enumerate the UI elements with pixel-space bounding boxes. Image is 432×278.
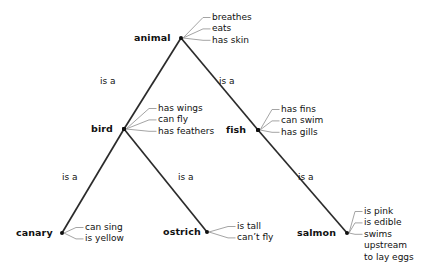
- property-bird-2: has feathers: [158, 126, 214, 137]
- property-link-fish-2: [260, 130, 280, 132]
- property-fish-2: has gills: [281, 127, 323, 138]
- property-link-fish-0: [260, 110, 280, 131]
- property-link-bird-2: [126, 129, 157, 131]
- property-bird-1: can fly: [158, 114, 214, 125]
- relation-label-bird-ostrich: is a: [178, 172, 194, 182]
- property-list-animal: breatheseatshas skin: [212, 12, 252, 46]
- property-salmon-3: upstream: [364, 240, 414, 251]
- node-label-canary[interactable]: canary: [16, 228, 53, 238]
- node-label-fish[interactable]: fish: [226, 125, 246, 135]
- node-marker-animal[interactable]: [179, 36, 183, 40]
- relation-label-animal-bird: is a: [100, 76, 116, 86]
- property-animal-1: eats: [212, 23, 252, 34]
- property-list-bird: has wingscan flyhas feathers: [158, 103, 214, 137]
- relation-label-animal-fish: is a: [219, 76, 235, 86]
- node-marker-ostrich[interactable]: [205, 230, 209, 234]
- node-label-animal[interactable]: animal: [134, 33, 171, 43]
- property-animal-2: has skin: [212, 35, 252, 46]
- property-link-animal-2: [183, 38, 211, 40]
- relation-label-bird-canary: is a: [62, 172, 78, 182]
- hierarchy-edge-bird-ostrich: [124, 129, 207, 232]
- semantic-network-diagram: is ais ais ais ais aanimalbreatheseatsha…: [0, 0, 432, 278]
- node-marker-bird[interactable]: [122, 127, 126, 131]
- property-ostrich-0: is tall: [237, 221, 273, 232]
- property-bird-0: has wings: [158, 103, 214, 114]
- property-salmon-2: swims: [364, 229, 414, 240]
- node-label-bird[interactable]: bird: [91, 124, 113, 134]
- property-link-canary-1: [64, 233, 84, 239]
- property-list-fish: has finscan swimhas gills: [281, 104, 323, 138]
- property-ostrich-1: can’t fly: [237, 232, 273, 243]
- property-salmon-0: is pink: [364, 206, 414, 217]
- node-marker-canary[interactable]: [60, 231, 64, 235]
- property-canary-0: can sing: [85, 222, 124, 233]
- node-label-salmon[interactable]: salmon: [297, 228, 336, 238]
- property-animal-0: breathes: [212, 12, 252, 23]
- property-list-canary: can singis yellow: [85, 222, 124, 245]
- property-link-animal-0: [183, 18, 211, 39]
- node-marker-salmon[interactable]: [345, 231, 349, 235]
- relation-label-fish-salmon: is a: [298, 172, 314, 182]
- property-fish-0: has fins: [281, 104, 323, 115]
- property-list-ostrich: is tallcan’t fly: [237, 221, 273, 244]
- property-list-salmon: is pinkis edibleswimsupstreamto lay eggs: [364, 206, 414, 263]
- property-link-ostrich-1: [209, 232, 236, 238]
- property-canary-1: is yellow: [85, 233, 124, 244]
- property-salmon-1: is edible: [364, 217, 414, 228]
- property-salmon-4: to lay eggs: [364, 252, 414, 263]
- property-link-salmon-2: [349, 233, 363, 234]
- property-link-ostrich-0: [209, 227, 236, 233]
- property-fish-1: can swim: [281, 115, 323, 126]
- property-link-canary-0: [64, 228, 84, 234]
- node-label-ostrich[interactable]: ostrich: [163, 227, 201, 237]
- node-marker-fish[interactable]: [256, 128, 260, 132]
